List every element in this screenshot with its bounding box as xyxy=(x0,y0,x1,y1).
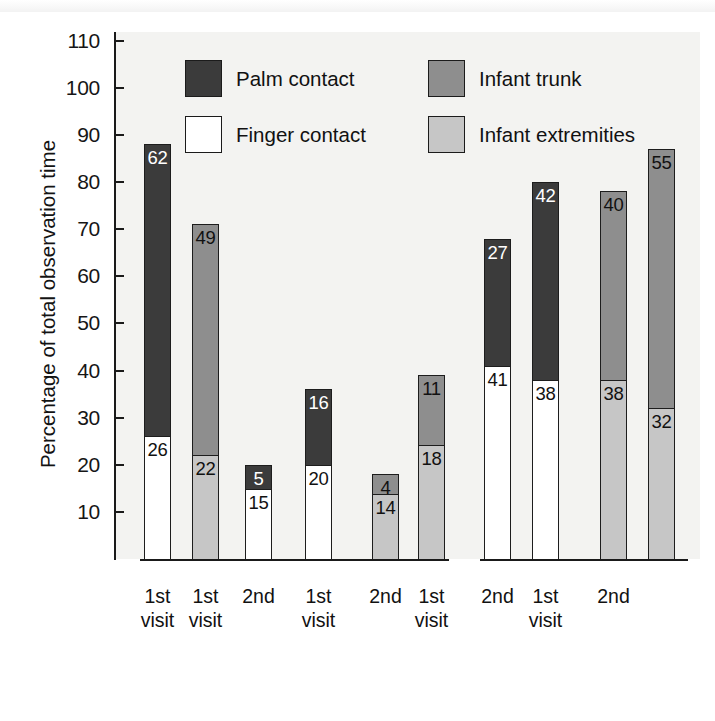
bar-segment[interactable]: 62 xyxy=(145,145,170,436)
bar-segment-value-label: 18 xyxy=(419,449,444,468)
x-tick-label-line2: visit xyxy=(279,608,359,632)
bar-segment[interactable]: 18 xyxy=(419,445,444,559)
bar-segment[interactable]: 40 xyxy=(601,192,626,379)
bar-segment[interactable]: 20 xyxy=(306,465,331,559)
x-axis-labels: 1stvisit1stvisit2nd1stvisit2nd1stvisit2n… xyxy=(0,560,715,721)
bar-segment-value-label: 26 xyxy=(145,440,170,459)
x-tick-label-visit: 2nd xyxy=(574,584,654,608)
bar-segment[interactable]: 26 xyxy=(145,436,170,559)
bar-segment-value-label: 38 xyxy=(533,384,558,403)
bar-segment[interactable]: 42 xyxy=(533,183,558,380)
bar-segment-value-label: 16 xyxy=(306,393,331,412)
x-tick-label-line2: visit xyxy=(166,608,246,632)
stacked-bar[interactable]: 6226 xyxy=(144,144,171,559)
stacked-bar[interactable]: 4922 xyxy=(192,224,219,559)
bar-segment[interactable]: 22 xyxy=(193,455,218,559)
bar-segment-value-label: 22 xyxy=(193,459,218,478)
cropped-caption xyxy=(0,706,715,721)
stacked-bar[interactable]: 1118 xyxy=(418,375,445,559)
figure-container: 110100908070605040302010 Percentage of t… xyxy=(0,0,715,721)
bar-segment-value-label: 27 xyxy=(485,243,510,262)
bar-segment[interactable]: 41 xyxy=(485,366,510,559)
bar-segment[interactable]: 27 xyxy=(485,240,510,366)
bar-segment[interactable]: 38 xyxy=(601,380,626,559)
bar-segment[interactable]: 5 xyxy=(246,466,271,489)
stacked-bar[interactable]: 4238 xyxy=(532,182,559,559)
bar-segment-value-label: 14 xyxy=(373,498,398,517)
bar-segment-value-label: 32 xyxy=(649,412,674,431)
bar-segment-value-label: 62 xyxy=(145,148,170,167)
bar-segment-value-label: 38 xyxy=(601,384,626,403)
bar-segment-value-label: 5 xyxy=(246,469,271,488)
bar-segment[interactable]: 32 xyxy=(649,408,674,559)
bar-segment[interactable]: 14 xyxy=(373,494,398,559)
x-tick-label-line1: 2nd xyxy=(574,584,654,608)
bar-segment[interactable]: 55 xyxy=(649,150,674,408)
bar-segment[interactable]: 11 xyxy=(419,376,444,445)
bar-segment-value-label: 20 xyxy=(306,469,331,488)
stacked-bar[interactable]: 2741 xyxy=(484,239,511,559)
bar-segment-value-label: 11 xyxy=(419,379,444,398)
bar-segment-value-label: 15 xyxy=(246,493,271,512)
stacked-bar[interactable]: 1620 xyxy=(305,389,332,559)
bar-segment[interactable]: 15 xyxy=(246,489,271,559)
stacked-bar[interactable]: 515 xyxy=(245,465,272,559)
bar-segment-value-label: 41 xyxy=(485,370,510,389)
bar-segment-value-label: 55 xyxy=(649,153,674,172)
stacked-bar[interactable]: 414 xyxy=(372,474,399,559)
x-tick-label-line2: visit xyxy=(392,608,472,632)
x-tick-label-line2: visit xyxy=(506,608,586,632)
plot-area: 110100908070605040302010 Percentage of t… xyxy=(0,0,715,600)
bar-segment-value-label: 40 xyxy=(601,195,626,214)
bar-segment-value-label: 42 xyxy=(533,186,558,205)
bar-segment-value-label: 49 xyxy=(193,228,218,247)
stacked-bar[interactable]: 4038 xyxy=(600,191,627,559)
bar-segment[interactable]: 16 xyxy=(306,390,331,465)
bar-segment[interactable]: 4 xyxy=(373,475,398,493)
bars-layer: 62264922515162041411182741423840385532 xyxy=(0,0,715,600)
bar-segment[interactable]: 38 xyxy=(533,380,558,559)
bar-segment[interactable]: 49 xyxy=(193,225,218,455)
stacked-bar[interactable]: 5532 xyxy=(648,149,675,559)
